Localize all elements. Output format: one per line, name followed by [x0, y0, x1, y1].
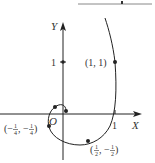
- x-tick-label: 1: [112, 120, 117, 131]
- svg-text:): ): [34, 123, 37, 135]
- svg-text:2: 2: [95, 151, 98, 157]
- point-label-1-1: (1, 1): [85, 57, 107, 69]
- point-label-quarter: (− 1 4 , − 1 4 ): [4, 123, 37, 136]
- svg-text:(−: (−: [4, 123, 13, 135]
- y-tick-label: 1: [51, 57, 56, 68]
- svg-text:): ): [115, 144, 118, 156]
- point-1-1: [113, 60, 117, 64]
- svg-text:2: 2: [111, 151, 114, 157]
- svg-text:1: 1: [30, 123, 33, 129]
- svg-text:, −: , −: [99, 144, 110, 155]
- point-near-origin-a: [53, 105, 57, 109]
- y-axis: [60, 22, 66, 160]
- spiral-diagram: Y X O 1 1 (1, 1) ( 1 2 , − 1 2 ) (− 1 4 …: [0, 0, 155, 163]
- svg-text:, −: , −: [18, 123, 29, 134]
- svg-text:1: 1: [14, 123, 17, 129]
- point-label-half: ( 1 2 , − 1 2 ): [90, 144, 118, 157]
- svg-text:4: 4: [14, 130, 17, 136]
- svg-text:(: (: [90, 144, 94, 156]
- svg-text:1: 1: [95, 144, 98, 150]
- point-near-origin-b: [64, 109, 68, 113]
- point-half-neg-half: [86, 139, 90, 143]
- spiral-curve: [48, 18, 116, 145]
- svg-text:1: 1: [111, 144, 114, 150]
- x-axis-label: X: [131, 119, 140, 131]
- svg-text:4: 4: [30, 130, 33, 136]
- y-axis-label: Y: [51, 20, 59, 32]
- x-axis: [0, 110, 142, 117]
- top-mark: [121, 1, 123, 4]
- origin-label: O: [49, 115, 57, 127]
